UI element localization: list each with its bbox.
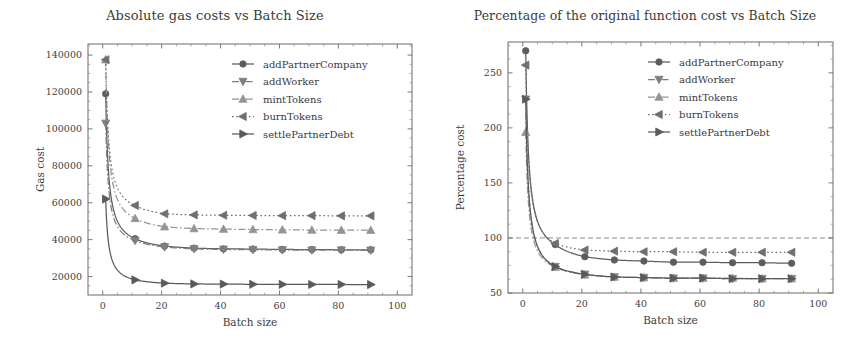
data-point-marker bbox=[368, 281, 376, 289]
chart-panel-percentage: Percentage of the original function cost… bbox=[430, 0, 860, 346]
series-mintTokens bbox=[522, 128, 796, 282]
legend-label: mintTokens bbox=[679, 92, 738, 103]
legend-item-settlePartnerDebt[interactable]: settlePartnerDebt bbox=[648, 127, 770, 138]
plot-percentage-original-cost: 50100150200250020406080100Batch sizePerc… bbox=[430, 0, 860, 346]
data-point-marker bbox=[366, 212, 374, 220]
x-tick-label: 60 bbox=[694, 298, 706, 309]
x-tick-label: 0 bbox=[100, 300, 106, 311]
data-point-marker bbox=[190, 211, 198, 219]
legend: addPartnerCompanyaddWorkermintTokensburn… bbox=[648, 57, 784, 138]
data-point-marker bbox=[338, 280, 346, 288]
x-tick-label: 100 bbox=[388, 300, 406, 311]
legend-item-addWorker[interactable]: addWorker bbox=[232, 76, 319, 87]
data-point-marker bbox=[669, 248, 677, 256]
legend-label: settlePartnerDebt bbox=[263, 129, 354, 140]
data-point-marker bbox=[521, 61, 529, 69]
series-mintTokens bbox=[102, 56, 375, 234]
data-point-marker bbox=[367, 226, 375, 233]
series-addPartnerCompany bbox=[102, 91, 374, 253]
legend-item-addPartnerCompany[interactable]: addPartnerCompany bbox=[232, 59, 368, 70]
y-tick-label: 20000 bbox=[52, 271, 82, 282]
x-tick-label: 60 bbox=[273, 300, 285, 311]
legend: addPartnerCompanyaddWorkermintTokensburn… bbox=[232, 59, 368, 140]
series-line bbox=[106, 199, 371, 285]
data-point-marker bbox=[700, 259, 706, 265]
data-point-marker bbox=[248, 211, 256, 219]
series-line bbox=[106, 123, 371, 250]
figure-container: Absolute gas costs vs Batch Size 2000040… bbox=[0, 0, 860, 346]
legend-marker-icon bbox=[239, 112, 247, 120]
legend-label: settlePartnerDebt bbox=[679, 127, 770, 138]
y-tick-label: 150 bbox=[484, 177, 502, 188]
legend-item-mintTokens[interactable]: mintTokens bbox=[232, 94, 322, 105]
y-tick-label: 120000 bbox=[46, 86, 82, 97]
data-point-marker bbox=[788, 260, 794, 266]
y-tick-label: 200 bbox=[484, 122, 502, 133]
data-point-marker bbox=[639, 248, 647, 256]
legend-label: burnTokens bbox=[679, 109, 739, 120]
legend-item-burnTokens[interactable]: burnTokens bbox=[648, 109, 739, 120]
series-line bbox=[106, 94, 371, 250]
legend-label: mintTokens bbox=[263, 94, 322, 105]
data-point-marker bbox=[102, 120, 110, 127]
legend-marker-icon bbox=[656, 128, 664, 136]
y-tick-label: 80000 bbox=[52, 160, 82, 171]
data-point-marker bbox=[191, 280, 199, 288]
data-point-marker bbox=[580, 246, 588, 254]
y-axis-label: Gas cost bbox=[34, 146, 46, 192]
data-point-marker bbox=[250, 280, 258, 288]
legend-marker-icon bbox=[656, 59, 662, 65]
legend-label: addPartnerCompany bbox=[263, 59, 368, 70]
legend-item-settlePartnerDebt[interactable]: settlePartnerDebt bbox=[232, 129, 354, 140]
x-tick-label: 40 bbox=[635, 298, 647, 309]
data-point-marker bbox=[582, 253, 588, 259]
series-addWorker bbox=[102, 120, 375, 254]
x-axis-label: Batch size bbox=[643, 314, 698, 326]
data-point-marker bbox=[699, 248, 707, 256]
legend-label: addPartnerCompany bbox=[679, 57, 784, 68]
data-point-marker bbox=[610, 247, 618, 255]
legend-item-mintTokens[interactable]: mintTokens bbox=[648, 92, 738, 103]
data-point-marker bbox=[161, 279, 169, 287]
x-axis-label: Batch size bbox=[223, 316, 278, 328]
plot-absolute-gas-costs: 2000040000600008000010000012000014000002… bbox=[0, 0, 430, 346]
data-point-marker bbox=[131, 237, 139, 244]
y-tick-label: 60000 bbox=[52, 197, 82, 208]
legend-marker-icon bbox=[240, 61, 246, 67]
x-tick-label: 80 bbox=[753, 298, 765, 309]
data-point-marker bbox=[670, 259, 676, 265]
data-point-marker bbox=[131, 214, 139, 221]
series-line bbox=[526, 132, 792, 278]
y-tick-label: 50 bbox=[490, 287, 502, 298]
legend-marker-icon bbox=[655, 110, 663, 118]
data-point-marker bbox=[729, 260, 735, 266]
legend-item-addPartnerCompany[interactable]: addPartnerCompany bbox=[648, 57, 784, 68]
series-addWorker bbox=[522, 96, 796, 283]
legend-label: addWorker bbox=[679, 74, 735, 85]
legend-label: burnTokens bbox=[263, 111, 323, 122]
data-point-marker bbox=[787, 248, 795, 256]
chart-panel-absolute: Absolute gas costs vs Batch Size 2000040… bbox=[0, 0, 430, 346]
y-tick-label: 140000 bbox=[46, 49, 82, 60]
legend-item-addWorker[interactable]: addWorker bbox=[648, 74, 735, 85]
data-point-marker bbox=[309, 280, 317, 288]
y-tick-label: 100 bbox=[484, 232, 502, 243]
series-line bbox=[106, 60, 371, 231]
x-tick-label: 40 bbox=[214, 300, 226, 311]
data-point-marker bbox=[337, 212, 345, 220]
data-point-marker bbox=[190, 224, 198, 231]
y-tick-label: 100000 bbox=[46, 123, 82, 134]
legend-item-burnTokens[interactable]: burnTokens bbox=[232, 111, 323, 122]
data-point-marker bbox=[759, 260, 765, 266]
x-tick-label: 80 bbox=[332, 300, 344, 311]
data-point-marker bbox=[102, 91, 108, 97]
y-tick-label: 250 bbox=[484, 67, 502, 78]
x-tick-label: 0 bbox=[520, 298, 526, 309]
x-tick-label: 20 bbox=[576, 298, 588, 309]
data-point-marker bbox=[131, 201, 139, 209]
data-point-marker bbox=[160, 210, 168, 218]
data-point-marker bbox=[641, 258, 647, 264]
legend-marker-icon bbox=[240, 130, 248, 138]
y-tick-label: 40000 bbox=[52, 234, 82, 245]
data-point-marker bbox=[278, 212, 286, 220]
